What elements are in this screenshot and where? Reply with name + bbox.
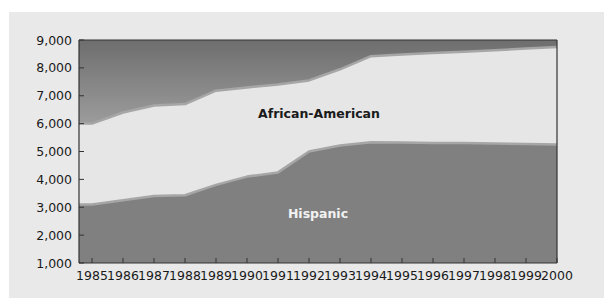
y-tick-label: 1,000 <box>36 256 72 271</box>
x-tick-label: 1988 <box>169 268 201 283</box>
y-tick-label: 3,000 <box>36 200 72 215</box>
x-tick-label: 2000 <box>541 268 573 283</box>
x-tick-label: 1997 <box>448 268 480 283</box>
x-tick-label: 1989 <box>200 268 232 283</box>
x-tick-label: 1986 <box>107 268 139 283</box>
y-tick-label: 7,000 <box>36 88 72 103</box>
x-tick-label: 1987 <box>138 268 170 283</box>
y-tick-label: 9,000 <box>36 33 72 48</box>
series-label-hispanic: Hispanic <box>288 206 348 221</box>
x-tick-label: 1991 <box>262 268 294 283</box>
stacked-area-chart: 1,0002,0003,0004,0005,0006,0007,0008,000… <box>0 0 612 305</box>
x-tick-label: 1995 <box>386 268 418 283</box>
plot-area <box>79 40 557 263</box>
x-tick-label: 1998 <box>479 268 511 283</box>
x-tick-label: 1992 <box>293 268 325 283</box>
x-tick-label: 1999 <box>510 268 542 283</box>
y-tick-label: 8,000 <box>36 60 72 75</box>
x-tick-label: 1990 <box>231 268 263 283</box>
y-tick-label: 2,000 <box>36 228 72 243</box>
x-tick-label: 1994 <box>355 268 387 283</box>
y-tick-label: 5,000 <box>36 144 72 159</box>
y-tick-label: 6,000 <box>36 116 72 131</box>
y-tick-label: 4,000 <box>36 172 72 187</box>
x-tick-label: 1996 <box>417 268 449 283</box>
x-tick-label: 1993 <box>324 268 356 283</box>
x-tick-label: 1985 <box>76 268 108 283</box>
series-label-african-american: African-American <box>258 106 380 121</box>
